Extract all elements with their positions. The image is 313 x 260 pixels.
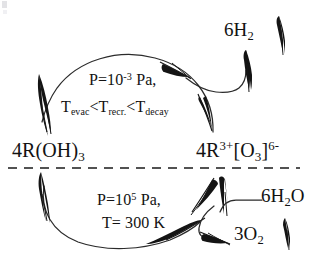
reactant-label-water: 6H2O — [261, 186, 305, 209]
bottom-condition-temperature: T= 300 K — [102, 215, 165, 232]
oxygen-branch-arrowhead — [200, 232, 230, 245]
species-right-bracket-open: [O — [233, 139, 254, 161]
water-formula: 6H — [261, 185, 284, 206]
species-left-subscript: 3 — [78, 149, 85, 164]
temp-operator-1: < — [89, 98, 98, 115]
species-right-formula: 4R — [196, 139, 220, 161]
top-arc-mid-arrowhead — [160, 62, 191, 79]
species-label-right: 4R3+[O3]6- — [196, 140, 279, 164]
oxygen-formula: 3O — [234, 223, 257, 244]
water-suffix: O — [291, 185, 305, 206]
hydrogen-branch-arrowhead — [244, 50, 252, 92]
product-label-hydrogen: 6H2 — [224, 20, 254, 43]
temp-operator-2: < — [126, 98, 135, 115]
species-left-formula: 4R(OH) — [12, 139, 78, 161]
top-pressure-suffix: Pa, — [132, 71, 156, 88]
hydrogen-gas-up-arrow — [277, 16, 285, 55]
top-arc-arrowhead — [38, 74, 51, 136]
temp-decay-symbol: T — [135, 98, 145, 115]
top-pressure-exponent: -3 — [123, 71, 132, 82]
species-right-bracket-charge: 6- — [268, 139, 279, 153]
temp-decay-subscript: decay — [145, 106, 169, 117]
bottom-condition-pressure: P=105 Pa, — [97, 192, 161, 209]
product-label-oxygen: 3O2 — [234, 224, 264, 247]
temp-evac-symbol: T — [61, 98, 71, 115]
temp-evac-subscript: evac — [71, 106, 90, 117]
bottom-pressure-prefix: P=10 — [97, 191, 131, 208]
species-label-left: 4R(OH)3 — [12, 140, 85, 164]
hydrogen-formula: 6H — [224, 19, 247, 40]
top-arc-path — [42, 55, 213, 132]
oxygen-gas-up-arrow — [283, 218, 290, 250]
top-arc-descend-arrowhead — [198, 94, 212, 131]
species-right-charge: 3+ — [220, 139, 234, 153]
oxygen-subscript: 2 — [257, 233, 263, 247]
temp-recr-symbol: T — [99, 98, 109, 115]
hydrogen-subscript: 2 — [247, 29, 253, 43]
top-condition-pressure: P=10-3 Pa, — [89, 72, 156, 89]
top-pressure-prefix: P=10 — [89, 71, 123, 88]
reaction-cycle-diagram: 4R(OH)3 4R3+[O3]6- 6H2 3O2 6H2O P=10-3 P… — [0, 0, 313, 260]
temp-recr-subscript: recr. — [108, 106, 126, 117]
bottom-pressure-suffix: Pa, — [137, 191, 161, 208]
top-condition-temperature: Tevac<Trecr.<Tdecay — [61, 99, 169, 117]
